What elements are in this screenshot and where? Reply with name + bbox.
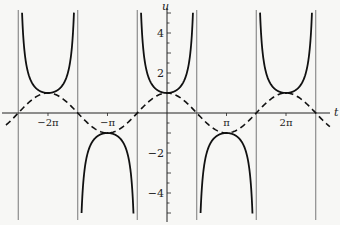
sec-curve-branch bbox=[82, 133, 134, 214]
y-tick-label: −2 bbox=[148, 147, 164, 160]
axes: t u bbox=[2, 0, 339, 222]
y-tick-label: 2 bbox=[157, 67, 164, 80]
sec-cos-plot: t u −2π−ππ2π42−2−4 bbox=[0, 0, 340, 225]
x-tick-label: −π bbox=[100, 117, 115, 128]
sec-curve-branch bbox=[201, 133, 253, 213]
sec-curve-branch bbox=[22, 13, 74, 93]
t-axis-label: t bbox=[334, 106, 339, 119]
sec-curve-branch bbox=[260, 13, 312, 93]
x-tick-label: −2π bbox=[37, 117, 59, 128]
x-tick-label: 2π bbox=[280, 117, 293, 128]
x-tick-label: π bbox=[223, 117, 230, 128]
y-tick-label: 4 bbox=[157, 27, 164, 40]
u-axis-label: u bbox=[162, 0, 169, 13]
y-tick-label: −4 bbox=[148, 187, 164, 200]
